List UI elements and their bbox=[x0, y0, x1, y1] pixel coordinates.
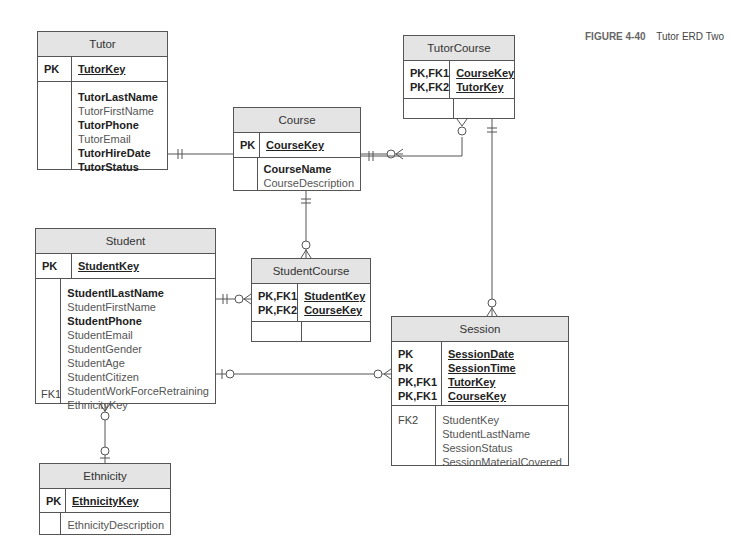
pk-section: PK StudentKey bbox=[36, 254, 215, 279]
pk-attribute: StudentKey bbox=[78, 259, 139, 273]
attribute: CourseName bbox=[264, 162, 354, 176]
entity-student: Student PK StudentKey FK1 StudentlLastNa… bbox=[35, 228, 216, 404]
pk-attribute: SessionTime bbox=[448, 361, 516, 375]
key-label: PK,FK2 bbox=[258, 303, 297, 317]
pk-section: PK,FK1 PK,FK2 CourseKey TutorKey bbox=[404, 61, 514, 99]
key-column: PK bbox=[36, 254, 72, 278]
attribute: StudentEmail bbox=[67, 328, 209, 342]
key-label: PK bbox=[44, 62, 71, 76]
attribute: StudentKey bbox=[442, 413, 562, 427]
rel-course-tutorcourse bbox=[361, 137, 462, 156]
attribute: EthnicityDescription bbox=[67, 518, 164, 532]
entity-ethnicity: Ethnicity PK EthnicityKey EthnicityDescr… bbox=[39, 463, 171, 535]
entity-title: StudentCourse bbox=[252, 259, 370, 284]
attribute: StudentCitizen bbox=[67, 370, 209, 384]
entity-studentcourse: StudentCourse PK,FK1 PK,FK2 StudentKey C… bbox=[251, 258, 371, 342]
pk-attribute: CourseKey bbox=[304, 303, 365, 317]
pk-section: PK PK PK,FK1 PK,FK1 SessionDate SessionT… bbox=[392, 342, 568, 406]
attribute: SessionStatus bbox=[442, 441, 562, 455]
attribute: StudentGender bbox=[67, 342, 209, 356]
entity-title: Course bbox=[234, 108, 360, 133]
attribute: StudentWorkForceRetraining bbox=[67, 384, 209, 398]
pk-attribute: TutorKey bbox=[448, 375, 516, 389]
key-column: PK bbox=[40, 489, 66, 512]
attr-section bbox=[252, 322, 370, 342]
key-column: PK bbox=[38, 57, 72, 81]
figure-title: Tutor ERD Two bbox=[656, 31, 724, 42]
entity-title: Ethnicity bbox=[40, 464, 170, 489]
key-label: PK bbox=[398, 361, 441, 375]
attr-column: TutorLastName TutorFirstName TutorPhone … bbox=[72, 82, 164, 170]
key-column bbox=[40, 513, 61, 535]
key-column bbox=[234, 158, 258, 191]
key-column bbox=[404, 99, 454, 119]
key-column: FK1 bbox=[36, 279, 61, 404]
attr-column: EthnicityDescription bbox=[61, 513, 170, 535]
attr-column: StudentKey CourseKey bbox=[298, 284, 371, 321]
key-column bbox=[38, 82, 72, 170]
attr-section bbox=[404, 99, 514, 119]
pk-section: PK,FK1 PK,FK2 StudentKey CourseKey bbox=[252, 284, 370, 322]
attr-column bbox=[302, 322, 314, 342]
attribute: TutorStatus bbox=[78, 160, 158, 174]
attr-column: TutorKey bbox=[72, 57, 131, 81]
attribute: CourseDescription bbox=[264, 176, 354, 190]
attribute: TutorFirstName bbox=[78, 104, 158, 118]
attribute: StudentFirstName bbox=[67, 300, 209, 314]
attribute: StudentAge bbox=[67, 356, 209, 370]
attr-column: StudentlLastName StudentFirstName Studen… bbox=[61, 279, 215, 404]
key-column: PK,FK1 PK,FK2 bbox=[252, 284, 298, 321]
attr-column: CourseKey TutorKey bbox=[450, 61, 520, 98]
entity-tutor: Tutor PK TutorKey TutorLastName TutorFir… bbox=[37, 31, 168, 170]
pk-section: PK CourseKey bbox=[234, 133, 360, 158]
attr-column bbox=[454, 99, 466, 119]
key-column: PK,FK1 PK,FK2 bbox=[404, 61, 450, 98]
key-column: PK bbox=[234, 133, 260, 157]
key-label: PK bbox=[240, 138, 259, 152]
attribute: StudentPhone bbox=[67, 314, 209, 328]
attr-section: TutorLastName TutorFirstName TutorPhone … bbox=[38, 82, 167, 170]
attribute: StudentlLastName bbox=[67, 286, 209, 300]
figure-caption: FIGURE 4-40 Tutor ERD Two bbox=[585, 31, 724, 42]
attr-column: CourseKey bbox=[260, 133, 330, 157]
entity-title: TutorCourse bbox=[404, 36, 514, 61]
attr-column: EthnicityKey bbox=[66, 489, 145, 512]
key-label: PK,FK1 bbox=[398, 389, 441, 403]
pk-section: PK EthnicityKey bbox=[40, 489, 170, 513]
key-label: PK bbox=[46, 494, 65, 508]
attr-column: CourseName CourseDescription bbox=[258, 158, 360, 191]
key-column: FK2 bbox=[392, 406, 436, 466]
key-label: PK,FK2 bbox=[410, 80, 449, 94]
pk-attribute: TutorKey bbox=[78, 62, 125, 76]
pk-section: PK TutorKey bbox=[38, 57, 167, 82]
attribute: TutorEmail bbox=[78, 132, 158, 146]
attr-section: CourseName CourseDescription bbox=[234, 158, 360, 191]
attr-section: FK1 StudentlLastName StudentFirstName St… bbox=[36, 279, 215, 404]
pk-attribute: CourseKey bbox=[266, 138, 324, 152]
key-label: PK,FK1 bbox=[410, 66, 449, 80]
fk-label: FK1 bbox=[41, 387, 61, 401]
attr-column: SessionDate SessionTime TutorKey CourseK… bbox=[442, 342, 522, 405]
entity-tutorcourse: TutorCourse PK,FK1 PK,FK2 CourseKey Tuto… bbox=[403, 35, 515, 119]
entity-session: Session PK PK PK,FK1 PK,FK1 SessionDate … bbox=[391, 316, 569, 466]
figure-number: FIGURE 4-40 bbox=[585, 31, 646, 42]
attribute: EthnicityKey bbox=[67, 398, 209, 412]
key-label: PK,FK1 bbox=[398, 375, 441, 389]
key-column: PK PK PK,FK1 PK,FK1 bbox=[392, 342, 442, 405]
attr-section: FK2 StudentKey StudentLastName SessionSt… bbox=[392, 406, 568, 466]
attribute: TutorPhone bbox=[78, 118, 158, 132]
key-label: PK bbox=[42, 259, 71, 273]
attribute: SessionMaterialCovered bbox=[442, 455, 562, 469]
attribute: TutorHireDate bbox=[78, 146, 158, 160]
attribute: TutorLastName bbox=[78, 90, 158, 104]
fk-label: FK2 bbox=[398, 413, 435, 427]
entity-title: Tutor bbox=[38, 32, 167, 57]
pk-attribute: TutorKey bbox=[456, 80, 514, 94]
pk-attribute: CourseKey bbox=[456, 66, 514, 80]
pk-attribute: SessionDate bbox=[448, 347, 516, 361]
pk-attribute: StudentKey bbox=[304, 289, 365, 303]
attribute: StudentLastName bbox=[442, 427, 562, 441]
attr-section: EthnicityDescription bbox=[40, 513, 170, 535]
key-label: PK,FK1 bbox=[258, 289, 297, 303]
entity-title: Student bbox=[36, 229, 215, 254]
